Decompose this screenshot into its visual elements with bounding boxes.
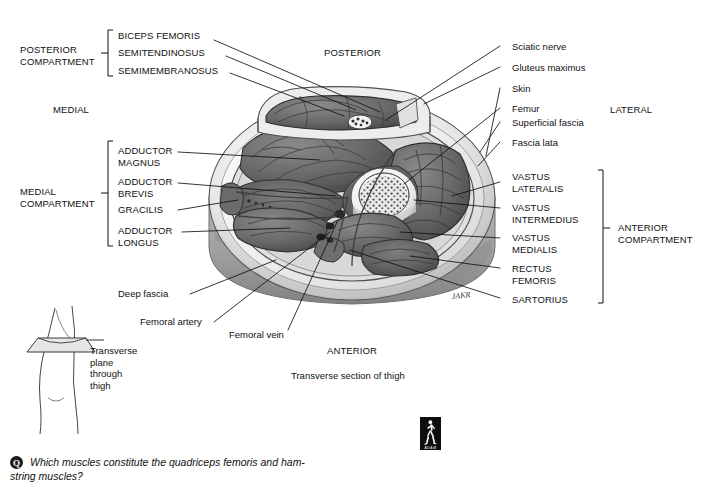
label-skin: Skin	[512, 83, 530, 95]
thigh-cross-section-illustration: JAKR	[0, 0, 703, 485]
label-adductor-longus: ADDUCTOR LONGUS	[118, 225, 172, 248]
label-rectus-femoris: RECTUS FEMORIS	[512, 263, 556, 286]
inset-caption: Transverse plane through thigh	[90, 345, 137, 391]
label-vastus-lateralis: VASTUS LATERALIS	[512, 171, 563, 194]
label-fascia-lata: Fascia lata	[512, 137, 558, 149]
label-semitendinosus: SEMITENDINOSUS	[118, 47, 205, 59]
question-badge: Q	[10, 456, 23, 469]
label-vastus-intermedius: VASTUS INTERMEDIUS	[512, 202, 579, 225]
label-posterior-direction: POSTERIOR	[324, 47, 381, 59]
label-femoral-artery: Femoral artery	[140, 316, 202, 328]
label-lateral-direction: LATERAL	[610, 104, 652, 116]
label-adductor-magnus: ADDUCTOR MAGNUS	[118, 145, 172, 168]
label-biceps-femoris: BICEPS FEMORIS	[118, 30, 200, 42]
label-femur: Femur	[512, 103, 539, 115]
question-line-2: string muscles?	[10, 469, 83, 483]
figure-caption: Transverse section of thigh	[291, 370, 405, 382]
label-adductor-brevis: ADDUCTOR BREVIS	[118, 176, 172, 199]
label-femoral-vein: Femoral vein	[229, 329, 284, 341]
question-line-1: Which muscles constitute the quadriceps …	[30, 455, 305, 469]
label-medial-direction: MEDIAL	[53, 104, 89, 116]
adam-wordmark: ADAM	[424, 446, 436, 450]
label-sciatic-nerve: Sciatic nerve	[512, 41, 566, 53]
label-superficial-fascia: Superficial fascia	[512, 117, 584, 129]
scan-artifact	[0, 0, 4, 7]
walking-figure-icon: ADAM	[420, 417, 441, 450]
label-posterior-compartment: POSTERIOR COMPARTMENT	[20, 44, 95, 67]
label-anterior-compartment: ANTERIOR COMPARTMENT	[618, 222, 693, 245]
figure-canvas: JAKR	[0, 0, 703, 485]
adam-logo: ADAM	[420, 417, 441, 450]
svg-text:JAKR: JAKR	[451, 290, 471, 301]
label-semimembranosus: SEMIMEMBRANOSUS	[118, 65, 218, 77]
label-sartorius: SARTORIUS	[512, 294, 568, 306]
label-medial-compartment: MEDIAL COMPARTMENT	[20, 186, 95, 209]
label-gluteus-maximus: Gluteus maximus	[512, 62, 585, 74]
label-anterior-direction: ANTERIOR	[327, 345, 377, 357]
label-vastus-medialis: VASTUS MEDIALIS	[512, 232, 557, 255]
label-gracilis: GRACILIS	[118, 204, 163, 216]
label-deep-fascia: Deep fascia	[118, 288, 168, 300]
